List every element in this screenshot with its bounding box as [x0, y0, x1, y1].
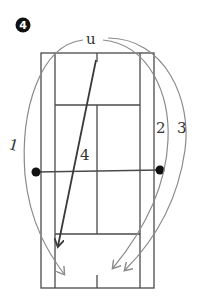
shot-label-1: 1 [7, 135, 21, 155]
shot-label-2: 2 [156, 119, 166, 137]
shot-path-1-arrow-icon [24, 40, 83, 274]
court [36, 53, 160, 288]
shot-label-3: 3 [177, 119, 187, 137]
step-badge: 4 [16, 18, 31, 33]
badge-number: 4 [19, 19, 27, 32]
origin-label: u [86, 30, 96, 48]
tennis-court-diagram: 4 u 1 2 3 4 [0, 0, 201, 299]
shot-path-3-arrow-icon [108, 38, 186, 270]
shot-path-4-arrow-icon [58, 60, 96, 246]
net-post-left-icon [32, 168, 41, 177]
shot-label-4: 4 [80, 146, 90, 164]
